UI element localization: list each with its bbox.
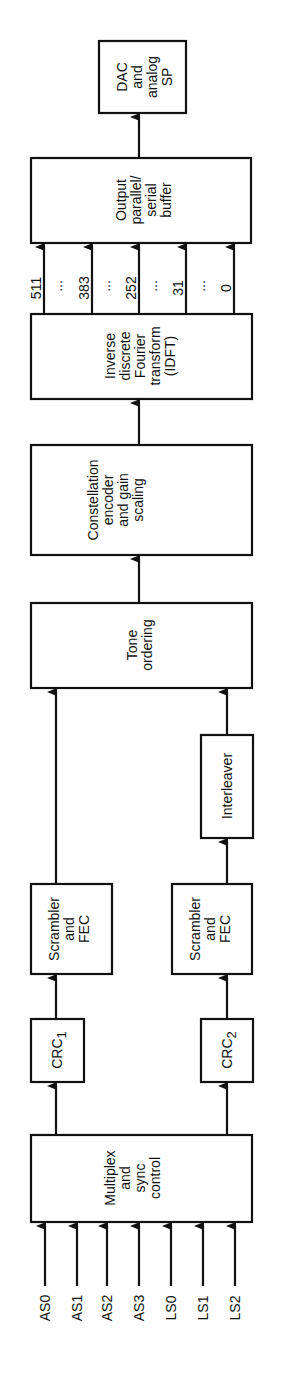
svg-text:encoder: encoder bbox=[100, 474, 116, 525]
ellipsis: ... bbox=[49, 280, 65, 292]
channel-label: 31 bbox=[170, 280, 186, 296]
svg-text:(IDFT): (IDFT) bbox=[162, 336, 178, 376]
channel-label: 383 bbox=[76, 276, 92, 300]
crc2-block: CRC2 bbox=[201, 1019, 253, 1082]
ellipsis: ... bbox=[97, 280, 113, 292]
ellipsis: ... bbox=[144, 280, 160, 292]
channel-label: 252 bbox=[123, 276, 139, 300]
input-label: LS1 bbox=[195, 1295, 211, 1320]
svg-text:and: and bbox=[61, 917, 77, 940]
svg-text:parallel/: parallel/ bbox=[128, 175, 144, 224]
input-label: AS3 bbox=[131, 1295, 147, 1322]
dmt-transmitter-block-diagram: DAC and analog SP Output parallel/ seria… bbox=[0, 0, 283, 1399]
input-label: AS2 bbox=[99, 1295, 115, 1322]
multiplex-sync-control-block: Multiplex and sync control bbox=[31, 1135, 252, 1222]
svg-text:Interleaver: Interleaver bbox=[219, 753, 235, 819]
svg-text:Fourier: Fourier bbox=[132, 333, 148, 378]
interleaver-block: Interleaver bbox=[201, 735, 253, 838]
input-label: LS0 bbox=[163, 1295, 179, 1320]
svg-text:and: and bbox=[117, 1166, 133, 1189]
dac-block: DAC and analog SP bbox=[99, 41, 186, 113]
scrambler-fec-1-block: Scrambler and FEC bbox=[31, 884, 112, 974]
svg-text:SP: SP bbox=[159, 68, 175, 87]
svg-text:Scrambler: Scrambler bbox=[187, 897, 203, 961]
svg-text:control: control bbox=[147, 1157, 163, 1199]
svg-text:Scrambler: Scrambler bbox=[46, 897, 62, 961]
channel-label: 0 bbox=[218, 284, 234, 292]
svg-text:Multiplex: Multiplex bbox=[102, 1150, 118, 1205]
svg-text:transform: transform bbox=[147, 326, 163, 385]
svg-text:Tone: Tone bbox=[124, 630, 140, 661]
svg-text:scaling: scaling bbox=[130, 478, 146, 522]
svg-text:Output: Output bbox=[113, 179, 129, 221]
svg-text:FEC: FEC bbox=[217, 915, 233, 943]
constellation-encoder-block: Constellation encoder and gain scaling bbox=[31, 445, 252, 555]
svg-text:DAC: DAC bbox=[114, 62, 130, 92]
svg-text:and: and bbox=[202, 917, 218, 940]
svg-text:buffer: buffer bbox=[158, 182, 174, 218]
channel-arrows: 511 383 252 31 0 ... ... ... ... bbox=[28, 247, 234, 314]
crc1-block: CRC1 bbox=[31, 1019, 84, 1082]
svg-text:FEC: FEC bbox=[76, 915, 92, 943]
svg-text:analog: analog bbox=[144, 56, 160, 98]
input-label: AS0 bbox=[37, 1295, 53, 1322]
tone-ordering-block: Tone ordering bbox=[31, 603, 252, 688]
channel-label: 511 bbox=[28, 277, 44, 300]
ellipsis: ... bbox=[192, 280, 208, 292]
scrambler-fec-2-block: Scrambler and FEC bbox=[172, 884, 252, 974]
svg-text:and: and bbox=[129, 65, 145, 88]
input-label: AS1 bbox=[69, 1295, 85, 1322]
svg-text:and gain: and gain bbox=[115, 473, 131, 527]
input-arrows: AS0 AS1 AS2 AS3 LS0 LS1 LS2 bbox=[37, 1226, 243, 1321]
output-buffer-block: Output parallel/ serial buffer bbox=[31, 158, 251, 243]
idft-block: Inverse discrete Fourier transform (IDFT… bbox=[31, 314, 252, 399]
svg-text:Constellation: Constellation bbox=[85, 460, 101, 541]
svg-text:serial: serial bbox=[143, 183, 159, 216]
svg-text:ordering: ordering bbox=[139, 619, 155, 670]
svg-text:sync: sync bbox=[132, 1164, 148, 1193]
svg-text:discrete: discrete bbox=[117, 331, 133, 380]
svg-text:Inverse: Inverse bbox=[102, 333, 118, 379]
input-label: LS2 bbox=[227, 1295, 243, 1320]
